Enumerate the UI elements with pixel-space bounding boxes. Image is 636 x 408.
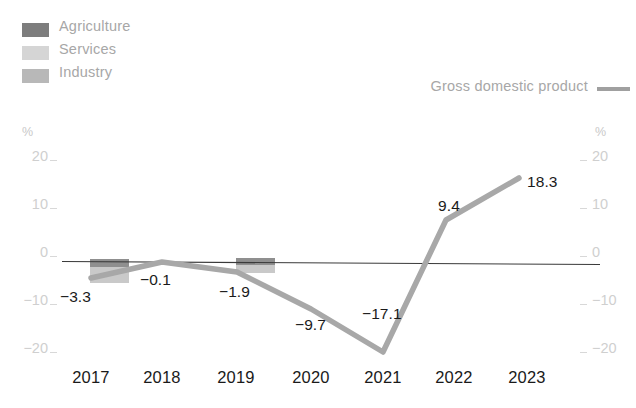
- x-label-2018: 2018: [132, 368, 192, 387]
- bar-2017-agriculture: [90, 259, 129, 267]
- bar-2019-agriculture: [236, 258, 275, 265]
- data-label-2019: −1.9: [219, 283, 250, 301]
- data-label-2018: −0.1: [140, 271, 171, 289]
- data-label-2017: −3.3: [60, 288, 91, 306]
- chart-container: Agriculture Services Industry Gross dome…: [0, 0, 636, 408]
- x-label-2021: 2021: [353, 368, 413, 387]
- x-label-2023: 2023: [497, 368, 557, 387]
- x-label-2017: 2017: [61, 368, 121, 387]
- data-label-2023: 18.3: [527, 173, 558, 191]
- x-label-2020: 2020: [281, 368, 341, 387]
- data-label-2021: −17.1: [362, 305, 402, 323]
- data-label-2020: −9.7: [295, 316, 326, 334]
- data-label-2022: 9.4: [438, 197, 460, 215]
- x-label-2019: 2019: [206, 368, 266, 387]
- x-label-2022: 2022: [424, 368, 484, 387]
- plot-area: [0, 0, 636, 408]
